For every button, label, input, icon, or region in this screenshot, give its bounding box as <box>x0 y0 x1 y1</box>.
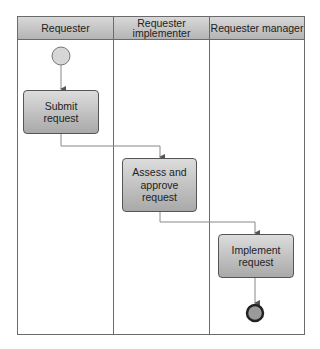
task-assess-approve-request: Assess and approve request <box>122 158 197 212</box>
task-implement-request: Implement request <box>218 234 294 278</box>
start-event-icon <box>52 47 70 65</box>
end-event-icon <box>247 305 263 321</box>
task-submit-request: Submit request <box>23 90 99 134</box>
